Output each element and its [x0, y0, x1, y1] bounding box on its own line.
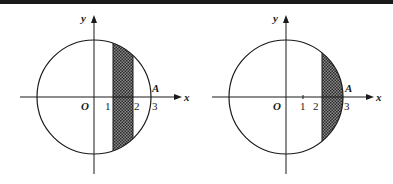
point-a-label: A — [151, 82, 159, 94]
origin-label: O — [273, 100, 281, 112]
tick-1: 1 — [105, 100, 111, 112]
y-axis-arrow-icon — [91, 15, 97, 23]
y-label: y — [271, 12, 278, 24]
y-axis-arrow-icon — [283, 15, 289, 23]
x-label: x — [375, 91, 382, 103]
x-axis-arrow-icon — [174, 94, 182, 100]
y-label: y — [79, 12, 86, 24]
x-axis-arrow-icon — [366, 94, 374, 100]
right-figure: x y O 1 2 3 A — [212, 12, 382, 174]
origin-label: O — [81, 100, 89, 112]
tick-3: 3 — [152, 100, 158, 112]
tick-2: 2 — [313, 100, 319, 112]
diagram-canvas: x y O 1 2 3 A x y O 1 2 3 A — [0, 0, 393, 184]
tick-2: 2 — [134, 100, 140, 112]
point-a-label: A — [344, 82, 352, 94]
tick-1: 1 — [300, 100, 306, 112]
tick-3: 3 — [344, 100, 350, 112]
left-figure: x y O 1 2 3 A — [20, 12, 190, 174]
x-label: x — [183, 91, 190, 103]
